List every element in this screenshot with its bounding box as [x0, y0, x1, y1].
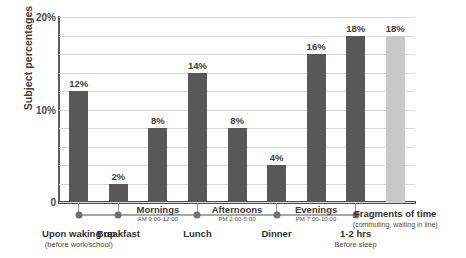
timeline-period-time: PM 7:00-10:00 — [295, 215, 337, 223]
bar-value-label: 16% — [307, 41, 326, 52]
bar-value-label: 8% — [151, 115, 165, 126]
timeline-point-name: Dinner — [262, 228, 292, 240]
gridline — [59, 17, 415, 18]
y-axis-tick-label: 0 — [12, 197, 56, 208]
bar-value-label: 18% — [346, 23, 365, 34]
fragments-of-time-label: Fragments of time(commuting, waiting in … — [353, 208, 438, 229]
timeline-point-sublabel: Before sleep — [335, 240, 377, 250]
bar[interactable] — [267, 165, 286, 202]
bar[interactable] — [188, 73, 207, 203]
bar[interactable] — [69, 91, 88, 202]
y-axis-tick-label: 20% — [12, 12, 56, 23]
bar[interactable] — [346, 36, 365, 203]
timeline-point-name: 1-2 hrs — [335, 228, 377, 240]
timeline-point-marker[interactable] — [115, 212, 122, 219]
bar[interactable] — [228, 128, 247, 202]
timeline-point-name: Breakfast — [97, 228, 140, 240]
timeline-point-marker[interactable] — [273, 212, 280, 219]
bar[interactable] — [148, 128, 167, 202]
timeline-point-label: 1-2 hrsBefore sleep — [335, 228, 377, 250]
gridline — [59, 202, 415, 203]
timeline-period-name: Evenings — [295, 204, 337, 215]
timeline-point-label: Dinner — [262, 228, 292, 240]
timeline-point-label: Breakfast — [97, 228, 140, 240]
timeline-period: AfternoonsPM 2:00-5:00 — [212, 204, 263, 223]
bar-value-label: 12% — [69, 78, 88, 89]
bar-value-label: 4% — [270, 152, 284, 163]
bar[interactable] — [386, 36, 405, 203]
bar-chart: Subject percentages 20%10%0 12%2%8%14%8%… — [0, 0, 466, 258]
timeline-period: EveningsPM 7:00-10:00 — [295, 204, 337, 223]
timeline-point-marker[interactable] — [75, 212, 82, 219]
bar-value-label: 14% — [188, 60, 207, 71]
y-axis-tick-label: 10% — [12, 104, 56, 115]
timeline-point-marker[interactable] — [194, 212, 201, 219]
bar[interactable] — [307, 54, 326, 202]
plot-area: 12%2%8%14%8%4%16%18%18% — [59, 17, 415, 202]
timeline-point-sublabel: (before work/school) — [42, 240, 115, 250]
timeline-period-name: Afternoons — [212, 204, 263, 215]
fragments-of-time-sublabel: (commuting, waiting in line) — [353, 220, 438, 229]
y-axis-tick-group: 20%10%0 — [0, 0, 56, 220]
timeline-point-name: Lunch — [183, 228, 212, 240]
timeline-period-time: PM 2:00-5:00 — [212, 215, 263, 223]
fragments-of-time-name: Fragments of time — [353, 208, 438, 220]
timeline-point-label: Lunch — [183, 228, 212, 240]
bar-value-label: 18% — [386, 23, 405, 34]
bar[interactable] — [109, 184, 128, 203]
timeline-period: MorningsAM 9:00-12:00 — [137, 204, 180, 223]
timeline-period-name: Mornings — [137, 204, 180, 215]
bar-value-label: 8% — [230, 115, 244, 126]
bar-value-label: 2% — [111, 171, 125, 182]
timeline-period-time: AM 9:00-12:00 — [137, 215, 180, 223]
